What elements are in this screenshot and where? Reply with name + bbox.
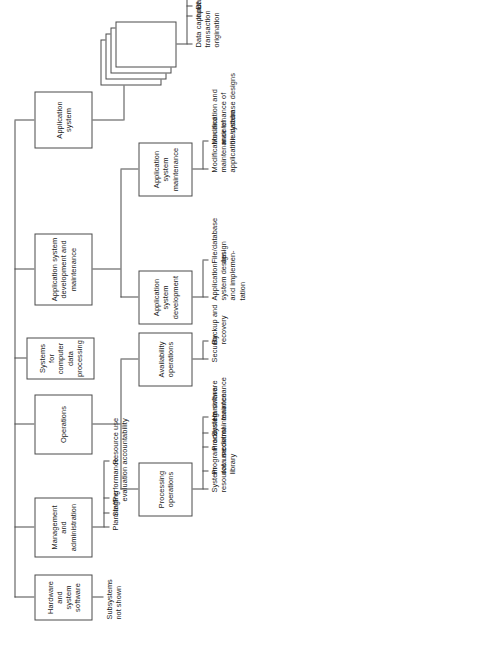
node-operations-label: Operations	[58, 405, 67, 442]
node-hardware-and-system-software-label: Hardware and system software	[45, 578, 82, 616]
node-operations[interactable]: Operations	[34, 394, 92, 454]
connector-processing-stem	[192, 488, 202, 489]
connector-operations-drop-0	[120, 488, 138, 489]
connector-level1-bus	[14, 120, 15, 597]
node-application-system[interactable]: Application system	[34, 91, 92, 148]
note-subsystems-not-shown: Subsystems not shown	[104, 559, 122, 619]
node-application-system-label: Application system	[54, 95, 72, 144]
diagram-canvas: Systems for computer data processing Har…	[0, 0, 487, 652]
connector-appsystem-tick-0	[186, 43, 192, 44]
connector-appdev-tick-1	[202, 259, 208, 260]
node-root-label: Systems for computer data processing	[37, 340, 83, 377]
connector-level1-drop-4	[14, 119, 34, 120]
connector-appsystem-tick-2	[186, 5, 192, 6]
connector-appdevmaint-stem	[92, 268, 120, 269]
node-application-system-maintenance-label: Application system maintenance	[151, 146, 179, 192]
connector-processing-tick-0	[202, 488, 208, 489]
node-application-system-development-label: Application system development	[151, 274, 179, 320]
node-management-and-administration-label: Management and administration	[49, 501, 77, 553]
connector-availability-tick-1	[202, 340, 208, 341]
connector-appmaint-tick-1	[202, 140, 208, 141]
connector-processing-bracket	[202, 417, 203, 489]
connector-appsystem-tick-1	[186, 15, 192, 16]
connector-availability-bracket	[202, 341, 203, 359]
node-application-system-maintenance[interactable]: Application system maintenance	[138, 142, 192, 196]
connector-hardware-note	[92, 596, 103, 597]
connector-appdev-bracket	[202, 260, 203, 297]
connector-operations-bus	[120, 359, 121, 489]
connector-appdevmaint-bus	[120, 169, 121, 297]
connector-appsystem-leaf-stem	[176, 43, 186, 44]
leaf-appmaint-1: Modification and maintenance of file/dat…	[209, 52, 237, 144]
connector-management-tick-3	[103, 460, 109, 461]
connector-management-bracket	[103, 461, 104, 527]
connector-level1-drop-1	[14, 526, 34, 527]
connector-processing-tick-3	[202, 432, 208, 433]
connector-appsystem-bracket	[186, 0, 187, 44]
leaf-appsystem-2: Data transmission	[193, 0, 202, 9]
node-processing-operations-label: Processing operations	[156, 466, 174, 512]
leaf-appdev-1: File/database design	[209, 193, 227, 263]
connector-appmaint-tick-0	[202, 168, 208, 169]
diagram-stage: Systems for computer data processing Har…	[0, 0, 487, 652]
connector-availability-tick-0	[202, 358, 208, 359]
connector-management-tick-2	[103, 497, 109, 498]
node-availability-operations-label: Availability operations	[156, 336, 174, 382]
connector-availability-stem	[192, 358, 202, 359]
connector-root-stem	[14, 357, 26, 358]
node-availability-operations[interactable]: Availability operations	[138, 332, 192, 386]
connector-management-stem	[92, 526, 103, 527]
connector-appdev-tick-0	[202, 296, 208, 297]
connector-management-tick-0	[103, 526, 109, 527]
node-application-system-development[interactable]: Application system development	[138, 270, 192, 324]
leaf-processing-4: Hardware maintenance	[209, 354, 227, 420]
node-processing-operations[interactable]: Processing operations	[138, 462, 192, 516]
node-application-system-development-and-maintenance-label: Application system development and maint…	[49, 237, 77, 301]
connector-level1-drop-3	[14, 268, 34, 269]
connector-operations-stem	[92, 423, 120, 424]
node-root[interactable]: Systems for computer data processing	[26, 337, 94, 379]
node-application-system-development-and-maintenance[interactable]: Application system development and maint…	[34, 233, 92, 305]
connector-appsystem-stem	[92, 119, 123, 120]
connector-appdevmaint-drop-0	[120, 296, 138, 297]
connector-appmaint-bracket	[202, 141, 203, 169]
connector-level1-drop-0	[14, 596, 34, 597]
stack-sheet-1[interactable]	[115, 21, 176, 67]
connector-appmaint-stem	[192, 168, 202, 169]
node-management-and-administration[interactable]: Management and administration	[34, 497, 92, 557]
connector-appdevmaint-drop-1	[120, 168, 138, 169]
connector-processing-tick-2	[202, 446, 208, 447]
leaf-management-3: Resource use accountability	[110, 398, 128, 464]
connector-level1-drop-2	[14, 423, 34, 424]
connector-appdev-stem	[192, 296, 202, 297]
connector-processing-tick-1	[202, 470, 208, 471]
connector-management-tick-1	[103, 512, 109, 513]
connector-processing-tick-4	[202, 416, 208, 417]
node-hardware-and-system-software[interactable]: Hardware and system software	[34, 574, 92, 620]
connector-operations-drop-1	[120, 358, 138, 359]
